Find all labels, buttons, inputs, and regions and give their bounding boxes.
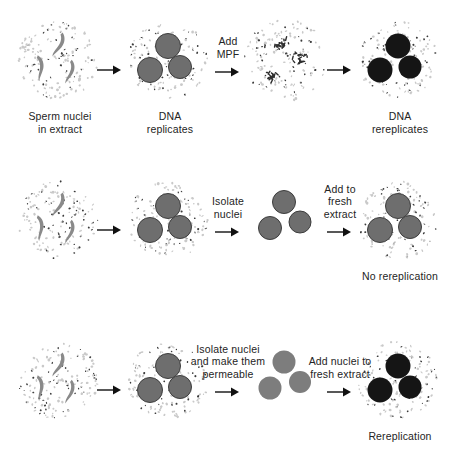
stage-caption: Rereplication (330, 430, 459, 443)
step-label: Add MPF (178, 35, 278, 60)
flow-arrow (326, 226, 352, 238)
row-2-no-rereplication: No rereplicationIsolate nucleiAdd to fre… (0, 180, 459, 340)
flow-arrow (214, 226, 240, 238)
stage-extract-nuclei (352, 20, 448, 116)
step-label: Add to fresh extract (290, 183, 390, 221)
figure-canvas: Sperm nuclei in extractDNA replicatesDNA… (0, 0, 459, 453)
stage-caption: No rereplication (330, 270, 459, 283)
flow-arrow (214, 386, 240, 398)
stage-extract-sperm (12, 340, 108, 436)
flow-arrow (96, 224, 122, 236)
flow-arrow (214, 66, 240, 78)
stage-extract-sperm (12, 20, 108, 116)
flow-arrow (326, 386, 352, 398)
step-label: Add nuclei to fresh extract (290, 355, 390, 380)
row-1-mpf: Sperm nuclei in extractDNA replicatesDNA… (0, 20, 459, 180)
flow-arrow (96, 384, 122, 396)
step-label: Isolate nuclei and make them permeable (178, 343, 278, 381)
row-3-rereplication: RereplicationIsolate nuclei and make the… (0, 340, 459, 453)
flow-arrow (326, 64, 352, 76)
stage-caption: DNA replicates (100, 110, 240, 135)
stage-extract-sperm (12, 180, 108, 276)
stage-caption: DNA rereplicates (330, 110, 459, 135)
flow-arrow (96, 64, 122, 76)
step-label: Isolate nuclei (178, 195, 278, 220)
